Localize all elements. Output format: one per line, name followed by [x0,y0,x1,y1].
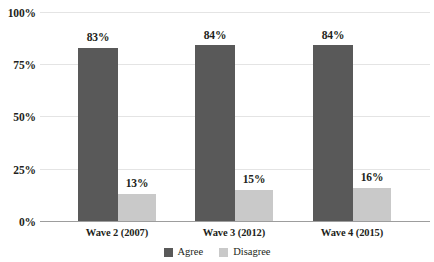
bar-agree-wave4 [313,45,353,221]
gridline-0 [40,221,430,222]
y-tick-label-75: 75% [0,60,36,72]
y-tick-label-0: 0% [0,217,36,229]
x-category-label-wave3: Wave 3 (2012) [195,228,273,239]
data-label-agree-wave4: 84% [313,30,353,42]
data-label-agree-wave2: 83% [78,32,118,44]
bar-chart: 100% 75% 50% 25% 0% 83% 13% 84% 15% 84% … [0,0,434,262]
legend-label-disagree: Disagree [233,247,270,258]
y-tick-label-25: 25% [0,165,36,177]
bar-disagree-wave2 [118,194,156,221]
bar-disagree-wave3 [235,190,273,221]
legend-label-agree: Agree [178,247,204,258]
legend-item-agree[interactable]: Agree [164,247,204,258]
x-category-label-wave2: Wave 2 (2007) [78,228,156,239]
legend-swatch-agree-icon [164,248,173,257]
y-tick-label-100: 100% [0,8,36,20]
bar-agree-wave2 [78,48,118,222]
bar-disagree-wave4 [353,188,391,221]
data-label-disagree-wave2: 13% [118,178,156,190]
gridline-100 [40,12,430,13]
chart-legend: Agree Disagree [0,247,434,258]
x-category-label-wave4: Wave 4 (2015) [313,228,391,239]
legend-swatch-disagree-icon [219,248,228,257]
data-label-disagree-wave3: 15% [235,174,273,186]
data-label-disagree-wave4: 16% [353,172,391,184]
bar-agree-wave3 [195,45,235,221]
y-tick-label-50: 50% [0,112,36,124]
data-label-agree-wave3: 84% [195,30,235,42]
legend-item-disagree[interactable]: Disagree [219,247,270,258]
